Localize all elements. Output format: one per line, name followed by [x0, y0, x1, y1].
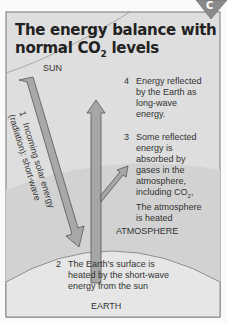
step-3-line: absorbed by — [136, 154, 202, 165]
step-3-line: atmosphere, — [136, 176, 202, 187]
step-3-line: energy is — [136, 143, 202, 154]
step-3-co2: including CO — [136, 187, 188, 197]
step-4-text: 4 Energy reflected by the Earth as long-… — [124, 76, 219, 120]
step-4-line: long-wave — [136, 98, 202, 109]
step-3-line: gases in the — [136, 165, 202, 176]
step-3-line: Some reflected — [136, 132, 202, 143]
step-2-line: heated by the short-wave — [68, 270, 169, 281]
diagram-title: The energy balance with normal CO2 level… — [15, 21, 217, 63]
sun-label: SUN — [43, 63, 62, 74]
step-3-line: including CO2, — [136, 187, 202, 202]
step-3-number: 3 — [124, 132, 136, 224]
step-3-text: 3 Some reflected energy is absorbed by g… — [124, 132, 219, 224]
step-2-number: 2 — [56, 259, 68, 292]
badge-letter: C — [206, 0, 213, 11]
step-4-number: 4 — [124, 76, 136, 120]
step-3-comma: , — [191, 187, 194, 197]
atmosphere-label: ATMOSPHERE — [116, 226, 178, 237]
title-line2-prefix: normal CO — [15, 39, 101, 57]
title-line2: normal CO2 levels — [15, 39, 217, 63]
title-line1: The energy balance with — [15, 21, 217, 39]
step-2-line: energy from the sun — [68, 281, 169, 292]
earth-label: EARTH — [91, 301, 121, 312]
step-3-line: The atmosphere — [136, 202, 202, 213]
step-2-text: 2 The Earth's surface is heated by the s… — [56, 259, 206, 292]
title-line2-suffix: levels — [107, 39, 159, 57]
step-4-line: by the Earth as — [136, 87, 202, 98]
step-4-line: energy. — [136, 109, 202, 120]
step-2-line: The Earth's surface is — [68, 259, 169, 270]
step-4-line: Energy reflected — [136, 76, 202, 87]
step-3-line: is heated — [136, 213, 202, 224]
